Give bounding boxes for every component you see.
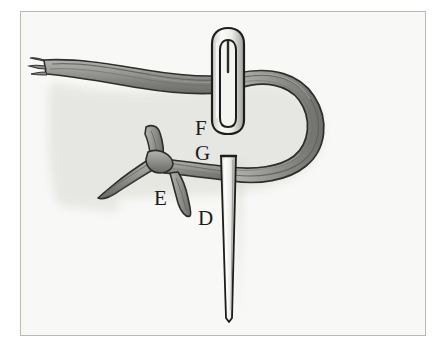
needle-eye-group — [212, 28, 244, 134]
figure-root: F G E D — [0, 0, 444, 349]
label-d: D — [198, 208, 213, 229]
needle-shadow — [236, 160, 244, 318]
needle-shaft-group — [221, 156, 236, 322]
needle-thread-illustration — [0, 0, 444, 349]
label-g: G — [195, 143, 210, 164]
label-e: E — [154, 188, 167, 209]
label-f: F — [195, 118, 207, 139]
